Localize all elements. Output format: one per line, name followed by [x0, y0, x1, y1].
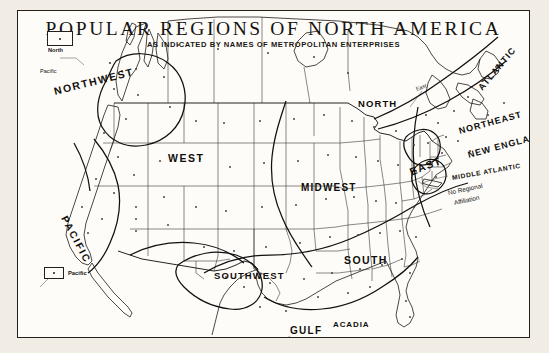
pacific-legend-label: Pacific — [68, 270, 87, 276]
map-figure: .bdr{fill:none;stroke:#2a2622;stroke-wid… — [0, 0, 549, 353]
pacific-legend-symbol-icon — [53, 272, 55, 274]
region-label-west: WEST — [168, 152, 204, 164]
region-label-southwest: SOUTHWEST — [214, 270, 285, 281]
region-label-north: NORTH — [358, 98, 397, 109]
annotation-pacific-callout-top: Pacific — [40, 68, 56, 74]
map-subtitle: AS INDICATED BY NAMES OF METROPOLITAN EN… — [18, 40, 529, 49]
region-label-gulf: GULF — [290, 325, 322, 336]
map-frame: .bdr{fill:none;stroke:#2a2622;stroke-wid… — [17, 10, 530, 338]
region-label-south: SOUTH — [344, 254, 388, 266]
region-label-midwest: MIDWEST — [301, 182, 357, 193]
region-label-acadia: ACADIA — [333, 320, 370, 329]
map-title: POPULAR REGIONS OF NORTH AMERICA — [18, 18, 529, 40]
north-legend-label: North — [48, 47, 63, 53]
north-legend-symbol-icon — [59, 38, 61, 40]
